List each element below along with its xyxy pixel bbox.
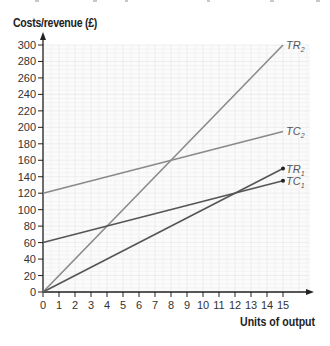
svg-text:140: 140 (18, 171, 36, 183)
svg-text:14: 14 (261, 299, 273, 311)
x-axis-title: Units of output (240, 315, 315, 329)
svg-text:240: 240 (18, 88, 36, 100)
svg-text:100: 100 (18, 204, 36, 216)
svg-text:80: 80 (24, 220, 36, 232)
svg-text:15: 15 (277, 299, 289, 311)
line-chart: 0204060801001201401601802002202402602803… (0, 0, 330, 346)
svg-text:12: 12 (229, 299, 241, 311)
svg-text:3: 3 (88, 299, 94, 311)
svg-text:160: 160 (18, 154, 36, 166)
svg-text:180: 180 (18, 138, 36, 150)
svg-text:13: 13 (245, 299, 257, 311)
y-axis-arrow-icon (40, 32, 46, 40)
series-label-tr2: TR2 (286, 39, 305, 53)
svg-text:300: 300 (18, 39, 36, 51)
svg-text:7: 7 (152, 299, 158, 311)
grid-lines (43, 45, 310, 292)
x-axis-ticks: 0123456789101112131415 (40, 292, 289, 311)
svg-text:0: 0 (40, 299, 46, 311)
end-point-marker-tc1 (281, 179, 285, 183)
svg-text:40: 40 (24, 253, 36, 265)
svg-text:220: 220 (18, 105, 36, 117)
svg-text:60: 60 (24, 237, 36, 249)
svg-text:260: 260 (18, 72, 36, 84)
svg-text:20: 20 (24, 270, 36, 282)
svg-text:1: 1 (56, 299, 62, 311)
svg-text:280: 280 (18, 55, 36, 67)
svg-text:11: 11 (213, 299, 224, 311)
svg-text:120: 120 (18, 187, 36, 199)
svg-text:8: 8 (168, 299, 174, 311)
svg-text:5: 5 (120, 299, 126, 311)
svg-text:2: 2 (72, 299, 78, 311)
svg-text:9: 9 (184, 299, 190, 311)
svg-text:10: 10 (197, 299, 209, 311)
svg-text:4: 4 (104, 299, 110, 311)
svg-text:200: 200 (18, 121, 36, 133)
svg-text:6: 6 (136, 299, 142, 311)
end-point-marker-tr1 (281, 167, 285, 171)
y-axis-ticks: 0204060801001201401601802002202402602803… (18, 39, 43, 298)
svg-text:0: 0 (30, 286, 36, 298)
y-axis-title: Costs/revenue (£) (13, 16, 97, 30)
